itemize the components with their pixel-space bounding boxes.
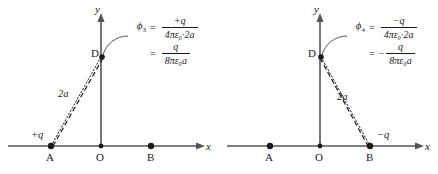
- formula-equals-2: =: [365, 48, 379, 59]
- point-label-O: O: [315, 152, 323, 163]
- formula-denominator-2: 8πε₀a: [386, 53, 414, 66]
- x-axis-label: x: [425, 141, 430, 152]
- formula-numerator-2: q: [395, 41, 406, 53]
- point-label-A: A: [46, 152, 54, 163]
- point-label-B: B: [366, 152, 373, 163]
- x-axis-arrowhead: [196, 142, 205, 149]
- distance-label-2a: 2a: [58, 89, 69, 100]
- point-marker-A: [267, 143, 273, 149]
- formula-block-left: ϕ3 = +q 4πε₀·2a = q 8πε₀a: [131, 14, 198, 66]
- formula-leader-curve: [322, 36, 347, 55]
- x-axis-label: x: [206, 141, 211, 152]
- y-axis-label: y: [314, 4, 319, 15]
- distance-label-2a: 2a: [337, 92, 348, 103]
- formula-line-1: ϕ3 = +q 4πε₀·2a: [131, 14, 198, 40]
- formula-fraction-2: q 8πε₀a: [162, 41, 190, 66]
- formula-equals-1: =: [146, 22, 160, 33]
- point-marker-O: [318, 144, 323, 149]
- formula-line-2: = − q 8πε₀a: [350, 40, 417, 66]
- formula-sign-2: −: [379, 48, 387, 59]
- formula-numerator-2: q: [170, 41, 181, 53]
- x-axis-arrowhead: [415, 142, 424, 149]
- formula-equals-1: =: [365, 22, 379, 33]
- formula-leader-curve: [103, 36, 128, 55]
- dashed-connector-A-to-D: [53, 58, 103, 146]
- formula-fraction-1: +q 4πε₀·2a: [162, 15, 198, 40]
- formula-symbol: ϕ4: [350, 19, 365, 34]
- formula-symbol: ϕ3: [131, 19, 146, 34]
- formula-line-1: ϕ4 = −q 4πε₀·2a: [350, 14, 417, 40]
- diagram-panel-left: x y A O B D +q 2a ϕ3 = +q 4πε₀·2a =: [0, 0, 219, 174]
- point-label-A: A: [265, 152, 273, 163]
- point-marker-A: [48, 143, 54, 149]
- formula-equals-2: =: [146, 48, 160, 59]
- formula-denominator-1: 4πε₀·2a: [162, 27, 198, 40]
- formula-denominator-2: 8πε₀a: [162, 53, 190, 66]
- formula-numerator-1: −q: [390, 15, 408, 27]
- point-marker-B: [367, 143, 373, 149]
- point-marker-D: [318, 54, 324, 60]
- point-marker-B: [148, 143, 154, 149]
- point-label-D: D: [308, 48, 316, 59]
- point-label-O: O: [96, 152, 104, 163]
- charge-label-A: +q: [31, 130, 43, 141]
- formula-fraction-2: q 8πε₀a: [386, 41, 414, 66]
- formula-block-right: ϕ4 = −q 4πε₀·2a = − q 8πε₀a: [350, 14, 417, 66]
- figure-canvas: x y A O B D +q 2a ϕ3 = +q 4πε₀·2a =: [0, 0, 438, 174]
- formula-line-2: = q 8πε₀a: [131, 40, 198, 66]
- point-marker-D: [99, 54, 105, 60]
- formula-numerator-1: +q: [171, 15, 189, 27]
- dotted-connector-A-to-D: [51, 57, 101, 146]
- diagram-panel-right: x y A O B D −q 2a ϕ4 = −q 4πε₀·2a =: [219, 0, 438, 174]
- formula-denominator-1: 4πε₀·2a: [381, 27, 417, 40]
- point-label-D: D: [91, 48, 99, 59]
- point-marker-O: [99, 144, 104, 149]
- point-label-B: B: [147, 152, 154, 163]
- charge-label-B: −q: [377, 130, 389, 141]
- formula-fraction-1: −q 4πε₀·2a: [381, 15, 417, 40]
- y-axis-label: y: [95, 4, 100, 15]
